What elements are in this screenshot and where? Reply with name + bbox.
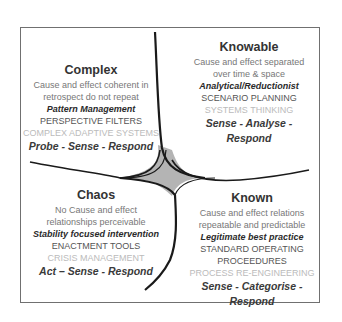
quadrant-system: CRISIS MANAGEMENT [26,252,166,264]
boundary-complex-chaos [30,150,160,178]
quadrant-description-line: over time & space [184,68,314,80]
quadrant-system: SYSTEMS THINKING [184,104,314,116]
quadrant-practice: Legitimate best practice [182,231,322,243]
quadrant-system: COMPLEX ADAPTIVE SYSTEMS [22,127,160,139]
quadrant-title: Known [182,190,322,206]
quadrant-tool: PROCEEDURES [182,255,322,267]
quadrant-practice: Pattern Management [22,103,160,115]
quadrant-system: PROCESS RE-ENGINEERING [182,267,322,279]
quadrant-description-line: repeatable and predictable [182,219,322,231]
quadrant-action: Sense - Categorise - Respond [182,279,322,309]
quadrant-chaos: Chaos No Cause and effect relationships … [26,187,166,279]
quadrant-action: Act – Sense - Respond [26,264,166,279]
quadrant-description-line: relationships perceivable [26,216,166,228]
quadrant-known: Known Cause and effect relations repeata… [182,190,322,309]
quadrant-complex: Complex Cause and effect coherent in ret… [22,62,160,154]
quadrant-description-line: retrospect do not repeat [22,91,160,103]
quadrant-tool: ENACTMENT TOOLS [26,240,166,252]
quadrant-title: Knowable [184,39,314,55]
quadrant-action: Sense - Analyse - Respond [184,116,314,146]
quadrant-description-line: Cause and effect relations [182,207,322,219]
quadrant-practice: Stability focused intervention [26,228,166,240]
quadrant-description-line: Cause and effect separated [184,56,314,68]
quadrant-description-line: Cause and effect coherent in [22,79,160,91]
quadrant-action: Probe - Sense - Respond [22,139,160,154]
quadrant-title: Chaos [26,187,166,203]
quadrant-tool: SCENARIO PLANNING [184,92,314,104]
quadrant-description-line: No Cause and effect [26,204,166,216]
quadrant-knowable: Knowable Cause and effect separated over… [184,39,314,146]
quadrant-tool: PERSPECTIVE FILTERS [22,115,160,127]
quadrant-tool: STANDARD OPERATING [182,243,322,255]
quadrant-practice: Analytical/Reductionist [184,80,314,92]
quadrant-title: Complex [22,62,160,78]
